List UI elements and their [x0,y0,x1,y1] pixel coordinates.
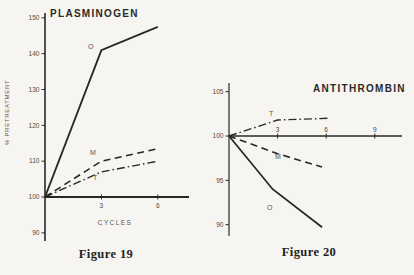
fig20-x-ticklabel-6: 6 [324,126,328,133]
figure-20-caption: Figure 20 [264,245,354,260]
fig19-y-ticklabel-140: 140 [28,50,39,57]
fig20-x-ticklabel-3: 3 [276,126,280,133]
fig19-x-ticklabel-6: 6 [156,202,160,209]
fig20-series-M-line [229,136,322,167]
fig19-y-ticklabel-110: 110 [29,157,40,164]
fig19-y-ticklabel-90: 90 [32,229,40,236]
fig20-y-ticklabel-90: 90 [216,221,224,228]
fig19-series-O-line [45,27,158,197]
fig19-y-ticklabel-120: 120 [28,122,39,129]
fig20-series-O-line [229,136,322,227]
fig20-x-ticklabel-9: 9 [373,126,377,133]
fig20-series-O-label: O [267,204,273,211]
fig19-series-O-label: O [88,43,94,50]
fig19-y-ticklabel-100: 100 [28,193,39,200]
fig20-series-T-label: T [269,110,274,117]
figure-19-caption: Figure 19 [60,247,152,262]
scanned-page: 1501401301201101009036OMT1051009590369TM… [0,0,414,275]
antithrombin-chart-title: ANTITHROMBIN [313,83,406,94]
plasminogen-chart-title: PLASMINOGEN [50,8,139,19]
fig19-series-T-label: T [93,174,98,181]
fig19-x-ticklabel-3: 3 [100,202,104,209]
fig20-y-ticklabel-105: 105 [212,88,223,95]
fig20-y-ticklabel-100: 100 [212,132,223,139]
fig19-y-ticklabel-130: 130 [28,86,39,93]
fig19-y-ticklabel-150: 150 [28,14,39,21]
fig20-y-ticklabel-95: 95 [216,177,224,184]
fig19-series-M-label: M [90,149,96,156]
charts-canvas: 1501401301201101009036OMT1051009590369TM… [0,0,414,275]
fig19-series-T-line [45,161,158,197]
pretreatment-y-axis-label: % PRETREATMENT [2,58,12,166]
fig20-series-M-label: M [275,153,281,160]
cycles-x-axis-label: CYCLES [91,219,139,226]
